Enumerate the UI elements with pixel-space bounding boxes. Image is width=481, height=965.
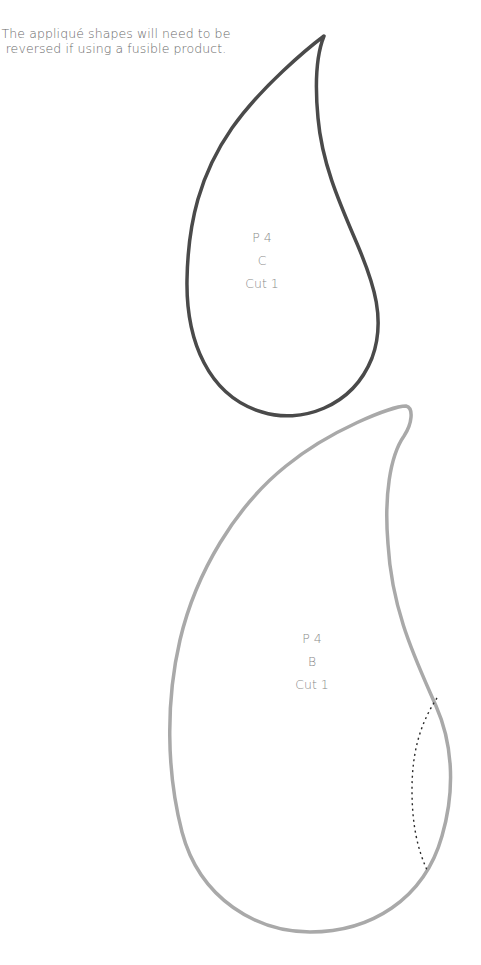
piece-c-page: P 4 bbox=[222, 226, 302, 249]
piece-b-letter: B bbox=[272, 650, 352, 673]
piece-b-cut: Cut 1 bbox=[272, 673, 352, 696]
piece-b-label: P 4 B Cut 1 bbox=[272, 627, 352, 696]
piece-b-page: P 4 bbox=[272, 627, 352, 650]
piece-c-letter: C bbox=[222, 249, 302, 272]
piece-c-label: P 4 C Cut 1 bbox=[222, 226, 302, 295]
piece-b-placement-dotted-line bbox=[412, 698, 437, 870]
piece-c-cut: Cut 1 bbox=[222, 272, 302, 295]
applique-template-shapes bbox=[0, 0, 481, 965]
